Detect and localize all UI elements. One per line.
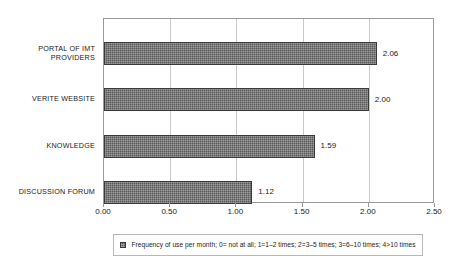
legend-swatch-icon bbox=[120, 242, 126, 248]
x-tick-label-2.00: 2.00 bbox=[360, 207, 376, 216]
bars-layer: 2.062.001.591.12 bbox=[104, 19, 433, 202]
x-axis-tick-labels: 0.000.501.001.502.002.50 bbox=[103, 207, 434, 221]
x-tick-label-1.50: 1.50 bbox=[294, 207, 310, 216]
bar-row: 1.59 bbox=[104, 135, 435, 158]
plot-area: 2.062.001.591.12 bbox=[103, 18, 434, 203]
bar-row: 1.12 bbox=[104, 181, 435, 204]
bar-value-label-3: 1.12 bbox=[258, 188, 274, 196]
y-axis-label-3: DISCUSSION FORUM bbox=[19, 187, 95, 196]
bar-chart: PORTAL OF IMT PROVIDERS VERITE WEBSITE K… bbox=[0, 0, 456, 262]
x-tick-label-2.50: 2.50 bbox=[426, 207, 442, 216]
bar-3 bbox=[104, 181, 252, 204]
bar-row: 2.06 bbox=[104, 42, 435, 65]
chart-legend: Frequency of use per month; 0= not at al… bbox=[113, 234, 423, 256]
bar-value-label-2: 1.59 bbox=[321, 142, 337, 150]
y-axis-label-1: VERITE WEBSITE bbox=[32, 94, 95, 103]
y-axis-label-2: KNOWLEDGE bbox=[46, 141, 95, 150]
bar-2 bbox=[104, 135, 315, 158]
legend-label: Frequency of use per month; 0= not at al… bbox=[131, 242, 415, 249]
x-tick-label-0.00: 0.00 bbox=[95, 207, 111, 216]
bar-value-label-1: 2.00 bbox=[375, 96, 391, 104]
y-axis-category-labels: PORTAL OF IMT PROVIDERS VERITE WEBSITE K… bbox=[0, 18, 99, 203]
x-tick-label-0.50: 0.50 bbox=[161, 207, 177, 216]
bar-1 bbox=[104, 88, 369, 111]
bar-row: 2.00 bbox=[104, 88, 435, 111]
y-axis-label-0: PORTAL OF IMT PROVIDERS bbox=[38, 44, 95, 62]
bar-0 bbox=[104, 42, 377, 65]
x-tick-label-1.00: 1.00 bbox=[228, 207, 244, 216]
bar-value-label-0: 2.06 bbox=[383, 50, 399, 58]
